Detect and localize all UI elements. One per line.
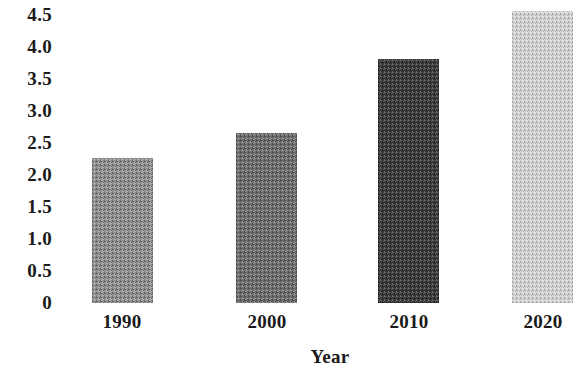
bar-2010 xyxy=(378,59,439,303)
bar-2000 xyxy=(236,133,297,303)
x-tick-label: 2010 xyxy=(349,312,469,331)
x-tick-label: 2020 xyxy=(483,312,577,331)
x-tick-label: 2000 xyxy=(207,312,327,331)
bar-2020 xyxy=(512,11,573,303)
x-axis-title: Year xyxy=(270,347,390,366)
bar-1990 xyxy=(92,158,153,303)
x-tick-label: 1990 xyxy=(62,312,182,331)
